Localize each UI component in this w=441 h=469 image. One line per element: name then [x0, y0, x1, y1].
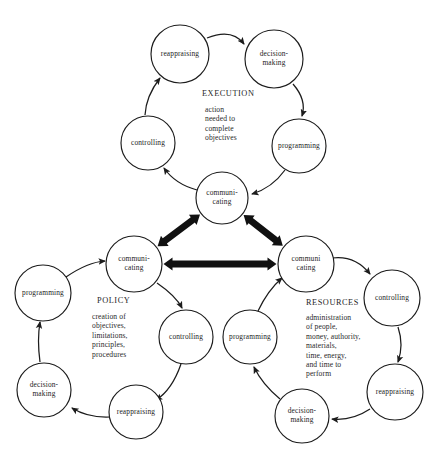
- node-policy-controlling[interactable]: controlling: [159, 310, 213, 364]
- group-description-line: objectives,: [92, 321, 126, 330]
- flow-arrow-exec-controlling-to-reappraising: [145, 78, 160, 115]
- node-label: programming: [229, 332, 271, 341]
- flow-arrow-res-decision-to-programming: [254, 367, 280, 399]
- node-exec-communicating[interactable]: communi-cating: [196, 172, 248, 224]
- flow-arrow-exec-reappraising-to-decision: [207, 34, 244, 44]
- flow-arrow-policy-communicating-to-controlling: [157, 283, 182, 308]
- group-description-line: needed to: [205, 114, 235, 123]
- group-caption-policy: POLICYcreation ofobjectives,limitations,…: [92, 296, 130, 359]
- node-label: reappraising: [161, 49, 199, 58]
- group-description-line: materials,: [306, 341, 337, 350]
- flow-arrow-res-communicating-to-controlling: [332, 258, 370, 274]
- group-description-line: creation of: [92, 312, 126, 321]
- node-policy-programming[interactable]: programming: [15, 265, 71, 321]
- group-description-line: limitations,: [92, 331, 128, 340]
- node-res-reappraising[interactable]: reappraising: [367, 364, 423, 420]
- group-description-line: objectives: [205, 133, 237, 142]
- node-label: cating: [297, 263, 316, 272]
- node-policy-decision-making[interactable]: decision-making: [17, 363, 71, 417]
- group-description-line: procedures: [92, 350, 126, 359]
- node-layer: reappraisingdecision-makingprogrammingco…: [15, 25, 423, 443]
- link-arrow-policy-to-resources-link: [164, 258, 277, 271]
- node-policy-reappraising[interactable]: reappraising: [109, 385, 163, 439]
- group-description-line: and time to: [306, 360, 341, 369]
- group-title-execution: EXECUTION: [202, 89, 254, 98]
- node-label: programming: [278, 141, 320, 150]
- node-label: controlling: [131, 138, 165, 147]
- flow-arrow-policy-reappraising-to-decision: [72, 408, 110, 417]
- group-title-policy: POLICY: [97, 296, 130, 305]
- node-label: making: [32, 389, 55, 398]
- node-res-decision-making[interactable]: decision-making: [275, 389, 329, 443]
- node-exec-decision-making[interactable]: decision-making: [245, 30, 303, 88]
- node-label: reappraising: [376, 387, 414, 396]
- management-cycle-diagram: reappraisingdecision-makingprogrammingco…: [0, 0, 441, 469]
- flow-arrow-res-controlling-to-reappraising: [398, 327, 401, 362]
- node-label: reappraising: [117, 407, 155, 416]
- flow-arrow-policy-programming-to-communicating: [66, 261, 105, 277]
- flow-arrow-res-reappraising-to-decision: [332, 409, 370, 419]
- node-label: programming: [22, 288, 64, 297]
- group-caption-resources: RESOURCESadministrationof people,money, …: [306, 298, 361, 378]
- flow-arrow-exec-decision-to-programming: [293, 84, 303, 116]
- group-title-resources: RESOURCES: [306, 298, 359, 307]
- group-caption-execution: EXECUTIONactionneeded tocompleteobjectiv…: [202, 89, 254, 142]
- node-res-controlling[interactable]: controlling: [364, 270, 420, 326]
- link-arrow-exec-to-resources-link: [244, 215, 283, 246]
- group-description-line: administration: [306, 313, 351, 322]
- group-description-line: perform: [306, 369, 331, 378]
- node-label: controlling: [375, 293, 409, 302]
- node-label: cating: [213, 197, 232, 206]
- node-exec-programming[interactable]: programming: [272, 119, 326, 173]
- group-description-line: money, authority,: [306, 332, 361, 341]
- group-description-line: principles,: [92, 340, 125, 349]
- node-exec-controlling[interactable]: controlling: [121, 116, 175, 170]
- node-label: making: [262, 58, 285, 67]
- flow-arrow-exec-programming-to-communicating: [252, 170, 285, 194]
- node-label: controlling: [169, 332, 203, 341]
- node-res-programming[interactable]: programming: [223, 310, 277, 364]
- node-exec-reappraising[interactable]: reappraising: [151, 25, 209, 83]
- group-description-line: action: [205, 105, 224, 114]
- flow-arrow-policy-controlling-to-reappraising: [156, 364, 181, 400]
- node-res-communicating[interactable]: communicating: [278, 236, 334, 292]
- flow-arrow-policy-decision-to-programming: [39, 322, 41, 362]
- group-description-line: of people,: [306, 322, 337, 331]
- node-label: making: [290, 415, 313, 424]
- group-description-line: complete: [205, 124, 234, 133]
- node-label: cating: [125, 263, 144, 272]
- flow-arrow-res-programming-to-communicating: [258, 278, 282, 311]
- diagram-canvas: reappraisingdecision-makingprogrammingco…: [0, 0, 441, 469]
- link-arrow-exec-to-policy-link: [158, 215, 200, 247]
- node-policy-communicating[interactable]: communi-cating: [106, 236, 162, 292]
- flow-arrow-exec-communicating-to-controlling: [164, 168, 197, 190]
- group-description-line: time, energy,: [306, 351, 347, 360]
